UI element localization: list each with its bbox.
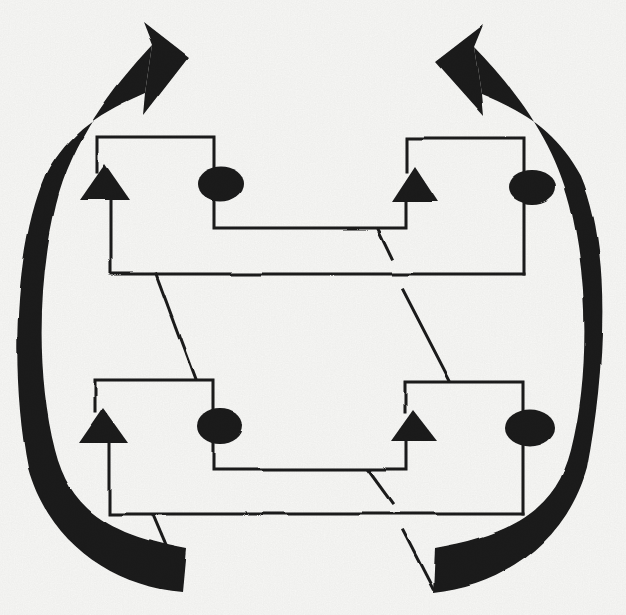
crossover-upper-right-a xyxy=(378,229,392,258)
diagram-figure xyxy=(0,0,626,615)
crossover-upper-right-b xyxy=(403,290,450,381)
cycle-diagram-svg xyxy=(0,0,626,615)
unit-top-left-stem-baseline xyxy=(111,200,524,274)
ellipse-bottom-left xyxy=(197,408,243,444)
triangle-top-right xyxy=(392,167,438,202)
cycle-arrow-left-head xyxy=(143,22,188,115)
crossover-upper-left xyxy=(156,274,195,379)
crossover-lower-right-a xyxy=(368,470,392,503)
cycle-arrow-left-band xyxy=(17,45,186,592)
ellipse-bottom-right xyxy=(505,410,555,447)
cycle-arrow-right-band xyxy=(433,47,602,593)
ellipse-top-left xyxy=(198,167,244,202)
triangle-bottom-left xyxy=(79,408,128,443)
cycle-arrow-right-head xyxy=(435,25,483,116)
unit-bottom-left-stem-baseline xyxy=(110,443,523,514)
triangle-top-left xyxy=(80,164,130,200)
unit-top-left-outline xyxy=(97,137,406,228)
diagram-shape-layer xyxy=(17,22,602,593)
triangle-bottom-right xyxy=(391,410,437,441)
ellipse-top-right xyxy=(508,170,556,204)
crossover-lower-right-b xyxy=(403,531,433,589)
unit-top-right-outline xyxy=(407,138,524,274)
unit-bottom-left-outline xyxy=(95,380,406,469)
unit-bottom-right-outline xyxy=(405,382,523,514)
scanned-figure-page xyxy=(0,0,626,615)
